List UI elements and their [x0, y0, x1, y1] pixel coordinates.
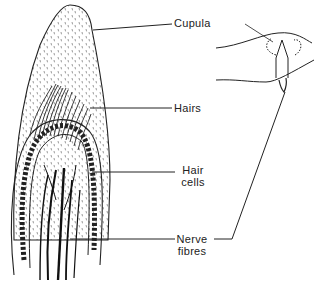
label-hairs: Hairs [174, 102, 201, 114]
label-nerve-fibres: Nerve fibres [174, 233, 210, 257]
inset-lateral-line [216, 24, 314, 92]
label-cupula: Cupula [174, 17, 211, 29]
label-nerve-fibres-line2: fibres [174, 245, 210, 257]
label-hair-cells-line2: cells [178, 176, 208, 188]
illustration [0, 0, 323, 284]
label-nerve-fibres-line1: Nerve [174, 233, 210, 245]
label-hair-cells-line1: Hair [178, 164, 208, 176]
label-hair-cells: Hair cells [178, 164, 208, 188]
neuromast-diagram: Cupula Hairs Hair cells Nerve fibres [0, 0, 323, 284]
